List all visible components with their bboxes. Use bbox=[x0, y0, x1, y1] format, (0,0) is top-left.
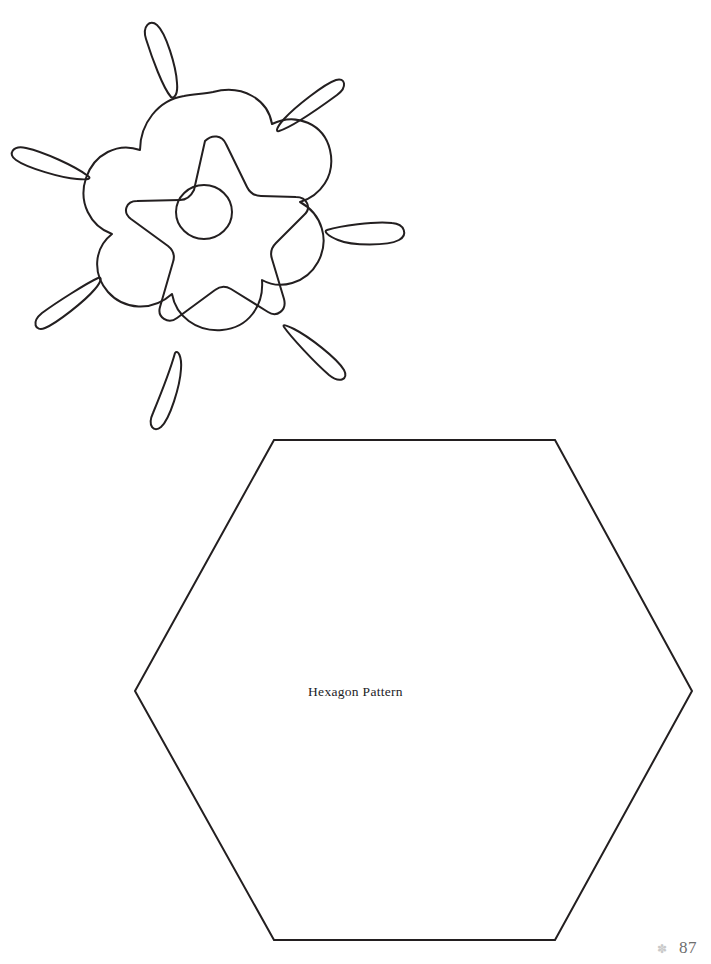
flower-ornament-icon: ✽ bbox=[657, 943, 667, 955]
flower-star-burst-group bbox=[12, 23, 404, 429]
sparkle-top bbox=[145, 23, 177, 98]
sparkle-right bbox=[326, 223, 405, 245]
artboard bbox=[0, 0, 711, 964]
sparkle-bottom bbox=[151, 352, 181, 429]
star-outline-path bbox=[126, 136, 308, 320]
page-folio: ✽ 87 bbox=[657, 939, 697, 956]
sparkle-left bbox=[12, 147, 90, 179]
flower-outline-path bbox=[84, 90, 332, 330]
page-number: 87 bbox=[679, 939, 697, 956]
hexagon-caption: Hexagon Pattern bbox=[0, 684, 711, 700]
sparkle-lower-left bbox=[35, 278, 100, 329]
worksheet-page: Hexagon Pattern ✽ 87 bbox=[0, 0, 711, 964]
sparkle-lower-right bbox=[283, 325, 345, 379]
star-center-circle bbox=[176, 185, 232, 239]
hexagon-caption-text: Hexagon Pattern bbox=[308, 684, 403, 700]
